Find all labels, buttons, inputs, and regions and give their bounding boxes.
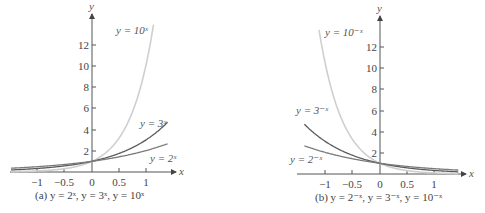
label-10-pow-neg-x: y = 10⁻ˣ xyxy=(324,26,364,38)
x-axis-label: x xyxy=(468,167,474,179)
svg-text:2: 2 xyxy=(372,147,378,159)
label-3-pow-x: y = 3ˣ xyxy=(139,117,167,129)
y-ticks: 2 4 6 8 10 12 xyxy=(366,41,384,159)
svg-text:−1: −1 xyxy=(31,176,43,188)
svg-text:2: 2 xyxy=(84,145,90,157)
svg-text:4: 4 xyxy=(84,124,90,136)
chart-b: x y 2 4 6 8 10 12 −1 −0.5 0 0.5 1 xyxy=(289,2,474,204)
x-axis-label: x xyxy=(178,165,184,177)
figure: x y 2 4 6 8 10 12 −1 −0.5 0 0.5 1 xyxy=(0,0,485,213)
svg-text:−0.5: −0.5 xyxy=(342,178,362,190)
svg-text:10: 10 xyxy=(78,60,90,72)
svg-text:−0.5: −0.5 xyxy=(54,176,74,188)
chart-a: x y 2 4 6 8 10 12 −1 −0.5 0 0.5 1 xyxy=(10,0,184,202)
caption-a: (a) y = 2ˣ, y = 3ˣ, y = 10ˣ xyxy=(35,189,145,202)
svg-text:1: 1 xyxy=(431,178,437,190)
svg-text:10: 10 xyxy=(366,62,378,74)
svg-text:0.5: 0.5 xyxy=(112,176,126,188)
label-2-pow-neg-x: y = 2⁻ˣ xyxy=(289,153,323,165)
svg-text:12: 12 xyxy=(78,39,89,51)
svg-text:12: 12 xyxy=(366,41,377,53)
y-axis-label: y xyxy=(376,2,382,14)
svg-text:1: 1 xyxy=(143,176,149,188)
svg-text:0: 0 xyxy=(89,176,95,188)
curve-10-pow-neg-x xyxy=(319,30,458,174)
y-ticks: 2 4 6 8 10 12 xyxy=(78,39,96,157)
caption-b: (b) y = 2⁻ˣ, y = 3⁻ˣ, y = 10⁻ˣ xyxy=(315,191,443,204)
svg-text:8: 8 xyxy=(84,81,90,93)
x-ticks: −1 −0.5 0 0.5 1 xyxy=(319,170,437,190)
svg-text:6: 6 xyxy=(84,102,90,114)
svg-text:6: 6 xyxy=(372,105,378,117)
svg-text:4: 4 xyxy=(372,126,378,138)
curve-2-pow-neg-x xyxy=(304,146,458,170)
label-10-pow-x: y = 10ˣ xyxy=(115,24,149,36)
curve-2-pow-x xyxy=(11,144,168,168)
y-axis-label: y xyxy=(88,0,94,12)
svg-text:−1: −1 xyxy=(319,178,331,190)
label-2-pow-x: y = 2ˣ xyxy=(149,152,177,164)
svg-text:0.5: 0.5 xyxy=(400,178,414,190)
label-3-pow-neg-x: y = 3⁻ˣ xyxy=(295,104,329,116)
svg-text:0: 0 xyxy=(377,178,383,190)
svg-text:8: 8 xyxy=(372,83,378,95)
